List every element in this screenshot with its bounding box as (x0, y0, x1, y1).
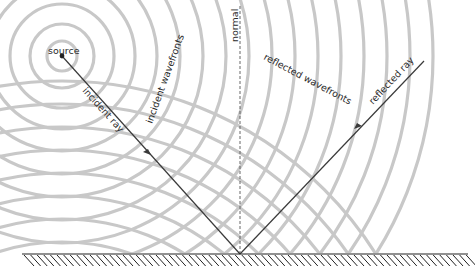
reflection-diagram: source incident ray incident wavefronts … (0, 0, 475, 267)
normal-label: normal (229, 9, 240, 42)
incident-ray-arrow-icon (143, 149, 151, 155)
reflecting-surface (22, 254, 475, 266)
incident-wavefronts (0, 0, 433, 267)
incident-wavefront (0, 0, 341, 267)
source-label: source (48, 45, 80, 56)
